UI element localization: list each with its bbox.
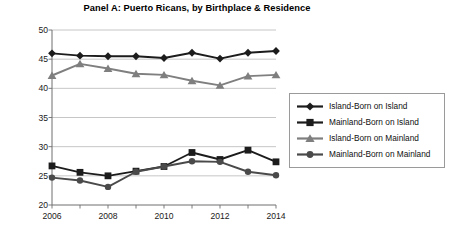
- marker-diamond: [188, 49, 196, 57]
- legend-marker-square-icon: [296, 116, 324, 129]
- legend-item-label: Mainland-Born on Island: [329, 118, 419, 126]
- x-axis-tick-label: 2008: [98, 211, 117, 221]
- marker-square: [49, 163, 56, 170]
- legend-marker-diamond-icon: [296, 100, 324, 113]
- marker-circle: [217, 159, 223, 165]
- series-island-born-on-mainland: [48, 60, 281, 89]
- marker-diamond: [48, 49, 56, 57]
- marker-square: [245, 147, 252, 154]
- series-island-born-on-island: [48, 47, 280, 62]
- y-axis-tick-label: 40: [38, 83, 48, 93]
- y-axis-tick-label: 35: [38, 113, 48, 123]
- series-line: [52, 150, 276, 176]
- marker-square: [306, 118, 313, 125]
- legend-marker-triangle-icon: [296, 132, 324, 145]
- marker-square: [273, 158, 280, 165]
- marker-circle: [49, 174, 55, 180]
- plot-canvas: [52, 30, 276, 205]
- marker-circle: [307, 151, 314, 158]
- chart-legend: Island-Born on IslandMainland-Born on Is…: [289, 93, 445, 168]
- legend-item-label: Mainland-Born on Mainland: [329, 150, 430, 158]
- marker-circle: [273, 172, 279, 178]
- x-axis-tick-label: 2006: [42, 211, 61, 221]
- legend-item-label: Island-Born on Mainland: [329, 134, 419, 142]
- legend-item[interactable]: Island-Born on Island: [290, 98, 444, 114]
- chart-title: Panel A: Puerto Ricans, by Birthplace & …: [52, 3, 342, 13]
- marker-diamond: [216, 55, 224, 63]
- legend-item-label: Island-Born on Island: [329, 102, 407, 110]
- marker-diamond: [244, 49, 252, 57]
- y-axis-tick-label: 30: [38, 142, 48, 152]
- marker-circle: [245, 169, 251, 175]
- marker-square: [105, 172, 112, 179]
- y-axis-tick-label: 50: [38, 25, 48, 35]
- legend-marker-circle-icon: [296, 148, 324, 161]
- legend-item[interactable]: Mainland-Born on Mainland: [290, 146, 444, 162]
- marker-circle: [161, 163, 167, 169]
- marker-circle: [77, 177, 83, 183]
- marker-square: [77, 169, 84, 176]
- series-mainland-born-on-island: [49, 147, 280, 179]
- plot-area: 2025303540455020062008201020122014: [52, 30, 276, 205]
- y-axis-tick-label: 25: [38, 171, 48, 181]
- marker-diamond: [272, 47, 280, 55]
- marker-circle: [189, 158, 195, 164]
- marker-circle: [133, 169, 139, 175]
- marker-diamond: [160, 54, 168, 62]
- chart-figure: Panel A: Puerto Ricans, by Birthplace & …: [0, 0, 456, 243]
- legend-item[interactable]: Island-Born on Mainland: [290, 130, 444, 146]
- x-axis-tick-label: 2012: [210, 211, 229, 221]
- x-axis-tick-label: 2010: [154, 211, 173, 221]
- x-axis-tick-label: 2014: [266, 211, 285, 221]
- y-axis-tick-label: 45: [38, 54, 48, 64]
- marker-square: [189, 149, 196, 156]
- marker-circle: [105, 184, 111, 190]
- marker-diamond: [306, 102, 314, 110]
- legend-item[interactable]: Mainland-Born on Island: [290, 114, 444, 130]
- y-axis-tick-label: 20: [38, 200, 48, 210]
- marker-diamond: [76, 52, 84, 60]
